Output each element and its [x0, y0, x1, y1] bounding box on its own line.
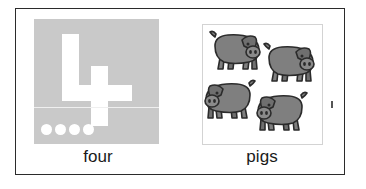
counting-dot	[55, 124, 66, 135]
counting-dot	[41, 124, 52, 135]
digit-four-descending-stem	[91, 66, 108, 126]
number-tile	[34, 19, 159, 144]
stray-mark	[331, 101, 333, 108]
counting-dot	[83, 124, 94, 135]
tile-divider-line	[34, 107, 159, 108]
pig-illustration	[206, 28, 262, 74]
number-caption: four	[16, 147, 180, 167]
pig-illustration	[260, 40, 316, 86]
counting-dot	[69, 124, 80, 135]
flashcard-panels: four	[16, 9, 344, 174]
pig-illustration	[203, 77, 259, 123]
pig-illustration	[255, 89, 311, 135]
counting-dots-group	[41, 124, 94, 135]
flashcard-card: four	[15, 8, 345, 175]
picture-caption: pigs	[180, 147, 344, 167]
picture-panel: pigs	[180, 9, 344, 174]
picture-frame	[202, 24, 323, 145]
number-panel: four	[16, 9, 180, 174]
